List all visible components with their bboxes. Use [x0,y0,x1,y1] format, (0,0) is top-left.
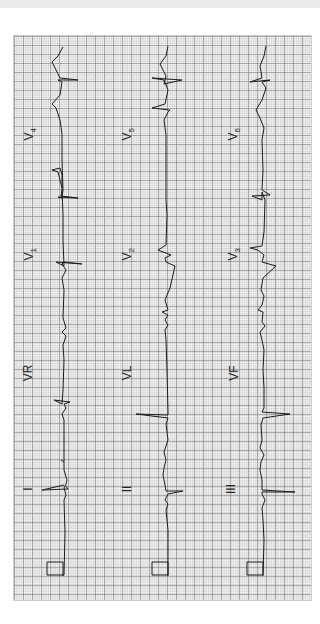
lead-label-v6: V6 [226,128,242,140]
lead-label-v2: V2 [120,248,136,260]
lead-label-v1: V1 [22,248,38,260]
lead-label-v4: V4 [22,128,38,140]
trace-row-3 [247,46,295,576]
lead-label-ii: II [120,486,134,493]
lead-label-i: I [21,487,35,490]
lead-label-v3: V3 [226,248,242,260]
lead-label-vr: VR [21,365,35,382]
trace-row-1 [42,47,82,576]
lead-label-v5: V5 [120,128,136,140]
trace-row-2 [136,46,183,576]
lead-label-vf: VF [227,365,241,380]
lead-label-vl: VL [120,366,134,381]
ecg-traces [0,0,320,624]
lead-label-iii: III [224,484,238,494]
